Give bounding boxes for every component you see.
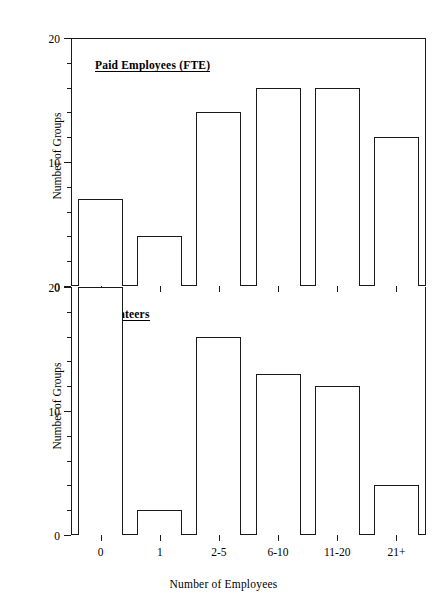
panel-paid-employees: Paid Employees (FTE) 01020 <box>71 38 426 286</box>
y-minor-tick <box>67 137 71 138</box>
y-minor-tick <box>67 485 71 486</box>
y-minor-tick <box>67 436 71 437</box>
top-caption <box>42 0 372 8</box>
bars-top <box>71 38 426 286</box>
y-axis-title-bottom: Number of Groups <box>51 363 63 450</box>
x-tick <box>337 535 338 541</box>
y-minor-tick <box>67 212 71 213</box>
bar <box>256 374 301 535</box>
bar <box>78 199 123 286</box>
x-tick-label: 21+ <box>387 546 405 558</box>
y-minor-tick <box>67 261 71 262</box>
bar <box>315 88 360 286</box>
figure-bar-chart-pair: Paid Employees (FTE) 01020 Number of Gro… <box>0 0 447 610</box>
x-tick-label: 2-5 <box>211 546 226 558</box>
x-tick-label: 6-10 <box>268 546 289 558</box>
y-tick-label: 20 <box>49 33 61 45</box>
y-minor-tick <box>67 112 71 113</box>
y-tick: 0 <box>64 535 71 536</box>
bar <box>374 137 419 286</box>
x-axis-title: Number of Employees <box>0 578 447 590</box>
bar <box>137 510 182 535</box>
x-tick <box>278 535 279 541</box>
x-tick-label: 11-20 <box>324 546 350 558</box>
x-tick-label: 1 <box>157 546 163 558</box>
bar <box>137 236 182 286</box>
x-tick <box>101 535 102 541</box>
bars-bottom <box>71 287 426 535</box>
y-tick: 10 <box>64 162 71 163</box>
y-minor-tick <box>67 187 71 188</box>
y-minor-tick <box>67 361 71 362</box>
y-minor-tick <box>67 312 71 313</box>
bar <box>315 386 360 535</box>
panel-volunteers: Volunteers 01020 012-56-1011-2021+ <box>71 287 426 535</box>
y-tick-label: 0 <box>54 530 60 542</box>
y-minor-tick <box>67 386 71 387</box>
bar <box>78 287 123 535</box>
y-minor-tick <box>67 236 71 237</box>
y-tick: 20 <box>64 38 71 39</box>
y-minor-tick <box>67 510 71 511</box>
y-tick: 20 <box>64 287 71 288</box>
x-tick <box>160 535 161 541</box>
bar <box>196 337 241 535</box>
y-minor-tick <box>67 337 71 338</box>
y-axis-title-top: Number of Groups <box>51 113 63 200</box>
x-tick <box>219 535 220 541</box>
y-minor-tick <box>67 63 71 64</box>
y-minor-tick <box>67 88 71 89</box>
bar <box>196 112 241 286</box>
x-tick <box>396 535 397 541</box>
y-minor-tick <box>67 461 71 462</box>
y-tick-label: 20 <box>49 282 61 294</box>
y-tick: 10 <box>64 411 71 412</box>
bar <box>374 485 419 535</box>
bar <box>256 88 301 286</box>
x-tick-label: 0 <box>98 546 104 558</box>
